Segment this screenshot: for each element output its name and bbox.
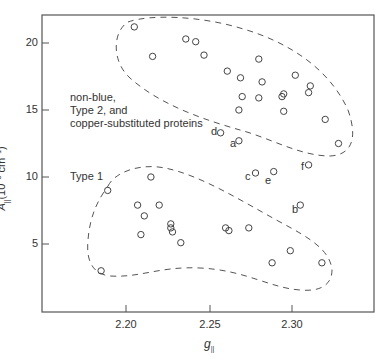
y-axis-label: A||(10−3 cm−1)	[0, 146, 13, 210]
data-point	[149, 53, 155, 59]
data-point	[193, 39, 199, 45]
data-point	[252, 170, 258, 176]
data-point	[237, 75, 243, 81]
data-point	[138, 231, 144, 237]
data-point	[178, 240, 184, 246]
data-point	[131, 24, 137, 30]
data-point	[183, 36, 189, 42]
plot-frame	[42, 15, 374, 312]
data-point	[259, 79, 265, 85]
data-point	[287, 248, 293, 254]
data-point	[236, 138, 242, 144]
data-point	[141, 213, 147, 219]
data-point	[134, 202, 140, 208]
x-tick-label: 2.20	[106, 318, 146, 330]
data-point	[269, 260, 275, 266]
point-label-c: c	[245, 170, 251, 183]
data-point	[246, 225, 252, 231]
y-tick-label: 10	[14, 170, 38, 182]
data-points	[98, 24, 342, 274]
lower-cluster-outline	[88, 167, 332, 291]
data-point	[307, 83, 313, 89]
x-tick-label: 2.30	[272, 318, 312, 330]
data-point	[256, 95, 262, 101]
data-point	[281, 108, 287, 114]
point-label-a: a	[230, 137, 236, 150]
data-point	[239, 93, 245, 99]
x-tick-label: 2.25	[190, 318, 230, 330]
scatter-plot	[0, 0, 385, 358]
data-point	[169, 229, 175, 235]
data-point	[105, 187, 111, 193]
lower-cluster-label: Type 1	[70, 170, 103, 183]
data-point	[148, 174, 154, 180]
upper-cluster-outline	[116, 17, 352, 156]
data-point	[292, 72, 298, 78]
data-point	[256, 56, 262, 62]
data-point	[319, 260, 325, 266]
point-label-e: e	[265, 174, 271, 187]
y-tick-label: 20	[14, 36, 38, 48]
data-point	[156, 202, 162, 208]
y-axis-ticks	[42, 43, 49, 244]
data-point	[217, 130, 223, 136]
x-axis-ticks	[126, 305, 292, 312]
point-label-d: d	[211, 125, 217, 138]
data-point	[201, 52, 207, 58]
data-point	[322, 116, 328, 122]
y-tick-label: 5	[14, 237, 38, 249]
y-tick-label: 15	[14, 103, 38, 115]
data-point	[335, 140, 341, 146]
data-point	[168, 225, 174, 231]
data-point	[271, 168, 277, 174]
data-point	[305, 89, 311, 95]
data-point	[224, 68, 230, 74]
point-label-b: b	[292, 203, 298, 216]
data-point	[305, 162, 311, 168]
upper-cluster-label: non-blue, Type 2, and copper-substituted…	[70, 91, 203, 130]
data-point	[98, 268, 104, 274]
x-axis-label: g||	[204, 338, 214, 355]
point-label-f: f	[301, 160, 304, 173]
data-point	[236, 107, 242, 113]
